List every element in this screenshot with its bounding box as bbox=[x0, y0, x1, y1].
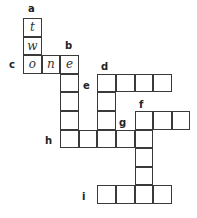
crossword-cell[interactable]: e bbox=[60, 55, 79, 74]
crossword-cell[interactable] bbox=[97, 130, 116, 149]
clue-label-g: g bbox=[119, 118, 126, 128]
cell-letter: n bbox=[47, 57, 55, 71]
clue-label-f: f bbox=[139, 100, 143, 110]
clue-label-b: b bbox=[65, 41, 72, 51]
crossword-cell[interactable]: o bbox=[23, 55, 42, 74]
cell-letter: w bbox=[27, 39, 37, 53]
crossword-cell[interactable] bbox=[172, 111, 191, 130]
crossword-cell[interactable] bbox=[60, 92, 79, 111]
crossword-cell[interactable] bbox=[60, 130, 79, 149]
crossword-cell[interactable]: n bbox=[42, 55, 61, 74]
crossword-grid: twoneabcdefghi bbox=[0, 0, 197, 218]
crossword-cell[interactable] bbox=[97, 74, 116, 93]
crossword-cell[interactable] bbox=[97, 111, 116, 130]
crossword-cell[interactable] bbox=[135, 130, 154, 149]
crossword-cell[interactable] bbox=[97, 92, 116, 111]
crossword-cell[interactable] bbox=[116, 74, 135, 93]
crossword-cell[interactable] bbox=[153, 74, 172, 93]
crossword-cell[interactable] bbox=[135, 148, 154, 167]
crossword-cell[interactable] bbox=[60, 111, 79, 130]
crossword-cell[interactable] bbox=[79, 130, 98, 149]
crossword-cell[interactable] bbox=[135, 167, 154, 186]
crossword-cell[interactable] bbox=[153, 111, 172, 130]
clue-label-d: d bbox=[101, 62, 108, 72]
crossword-cell[interactable]: t bbox=[23, 18, 42, 37]
cell-letter: t bbox=[30, 20, 35, 34]
clue-label-e: e bbox=[83, 81, 90, 91]
crossword-cell[interactable] bbox=[135, 111, 154, 130]
clue-label-i: i bbox=[82, 192, 85, 202]
crossword-cell[interactable] bbox=[116, 185, 135, 204]
crossword-cell[interactable] bbox=[135, 185, 154, 204]
crossword-cell[interactable] bbox=[60, 74, 79, 93]
crossword-cell[interactable] bbox=[97, 185, 116, 204]
cell-letter: o bbox=[29, 57, 36, 71]
clue-label-h: h bbox=[45, 136, 52, 146]
clue-label-a: a bbox=[28, 4, 35, 14]
clue-label-c: c bbox=[9, 60, 15, 70]
crossword-cell[interactable] bbox=[153, 185, 172, 204]
crossword-cell[interactable]: w bbox=[23, 37, 42, 56]
crossword-cell[interactable] bbox=[135, 74, 154, 93]
cell-letter: e bbox=[66, 57, 73, 71]
crossword-cell[interactable] bbox=[116, 130, 135, 149]
